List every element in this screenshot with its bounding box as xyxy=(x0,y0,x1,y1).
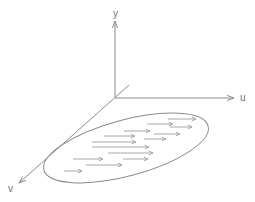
flow-arrow xyxy=(64,169,82,173)
flow-arrow xyxy=(73,157,103,161)
region-group xyxy=(37,99,216,197)
flow-arrow xyxy=(144,137,166,141)
flow-arrow xyxy=(86,163,122,167)
y-axis-label: y xyxy=(113,8,118,19)
u-axis-label: u xyxy=(240,92,246,103)
diagram-canvas: yuv xyxy=(0,0,255,202)
flow-arrow xyxy=(123,157,148,161)
flow-arrow xyxy=(168,117,196,121)
v-axis-line xyxy=(19,85,129,183)
flow-arrow xyxy=(154,132,180,136)
v-axis xyxy=(19,85,129,183)
flow-arrow xyxy=(108,151,153,155)
flow-arrow xyxy=(147,122,173,126)
flow-arrow xyxy=(170,125,192,129)
flow-region-ellipse xyxy=(37,99,216,197)
flow-arrow xyxy=(104,134,135,138)
vector-field-diagram: yuv xyxy=(0,0,255,202)
flow-arrow xyxy=(92,145,149,149)
y-axis xyxy=(112,21,117,98)
flow-arrow xyxy=(124,129,150,133)
u-axis xyxy=(115,95,234,100)
flow-arrow xyxy=(92,140,136,144)
v-axis-label: v xyxy=(8,183,13,194)
